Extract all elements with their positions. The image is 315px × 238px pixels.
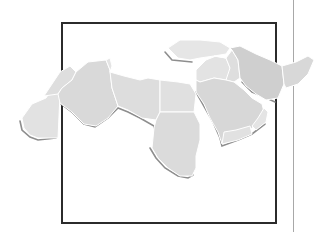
region-afghanistan — [282, 56, 314, 88]
region-egypt — [160, 80, 196, 112]
mena-map-illustration — [0, 0, 315, 238]
region-libya — [110, 72, 160, 120]
region-mauritania — [22, 92, 60, 138]
region-sudan — [152, 112, 200, 176]
